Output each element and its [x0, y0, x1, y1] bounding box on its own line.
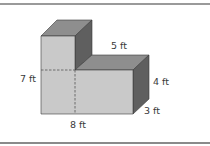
label-right-height: 4 ft: [153, 76, 169, 87]
label-top-width: 5 ft: [111, 40, 127, 51]
label-total-height: 7 ft: [20, 73, 36, 84]
prism-diagram: 5 ft 7 ft 4 ft 3 ft 8 ft: [0, 0, 210, 146]
label-total-width: 8 ft: [70, 119, 86, 130]
frame-bottom-border: [0, 142, 210, 144]
label-depth: 3 ft: [144, 105, 160, 116]
